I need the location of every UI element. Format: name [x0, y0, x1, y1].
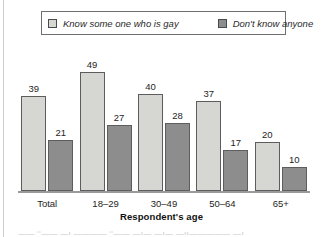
x-axis-tick-label: 30–49: [137, 198, 191, 209]
bar: [223, 150, 248, 191]
chart-legend: Know some one who is gay Don't know anyo…: [41, 11, 286, 35]
legend-swatch-dark-icon: [218, 19, 227, 28]
x-axis-tick-labels: Total18–2930–4950–6465+: [18, 198, 310, 209]
bar-value-label: 28: [172, 110, 183, 121]
bar: [80, 72, 105, 191]
bar-value-label: 37: [204, 88, 215, 99]
x-axis-title: Respondent's age: [0, 211, 323, 222]
bar-column: 28: [165, 44, 190, 191]
bar-column: 39: [21, 44, 46, 191]
bar: [21, 96, 46, 191]
bar-column: 10: [282, 44, 307, 191]
legend-label-know-someone: Know some one who is gay: [63, 18, 179, 29]
chart-plot-area: 39214927402837172010: [18, 44, 310, 193]
bar-group: 4927: [80, 44, 132, 191]
bar-column: 49: [80, 44, 105, 191]
x-axis-tick-label: 50–64: [195, 198, 249, 209]
x-axis-tick-label: Total: [20, 198, 74, 209]
chart-page: Know some one who is gay Don't know anyo…: [0, 0, 323, 237]
legend-entry-know-someone: Know some one who is gay: [48, 18, 179, 29]
bar-value-label: 10: [289, 154, 300, 165]
bar-column: 17: [223, 44, 248, 191]
bar-group: 4028: [138, 44, 190, 191]
legend-swatch-light-icon: [48, 19, 57, 28]
x-axis-tick-label: 18–29: [79, 198, 133, 209]
bar-group: 3921: [21, 44, 73, 191]
bar: [196, 101, 221, 191]
x-axis-line: [18, 191, 310, 193]
bar: [282, 167, 307, 191]
bar-column: 20: [255, 44, 280, 191]
bar-column: 37: [196, 44, 221, 191]
bar-value-label: 49: [87, 59, 98, 70]
bar-value-label: 40: [145, 81, 156, 92]
bar-groups: 39214927402837172010: [18, 44, 310, 191]
bar-column: 21: [48, 44, 73, 191]
bar: [107, 125, 132, 191]
bar-value-label: 17: [231, 137, 242, 148]
legend-label-dont-know: Don't know anyone: [233, 18, 314, 29]
bar: [165, 123, 190, 191]
bar-group: 3717: [196, 44, 248, 191]
legend-entry-dont-know: Don't know anyone: [218, 18, 314, 29]
bar-group: 2010: [255, 44, 307, 191]
bar-value-label: 20: [262, 129, 273, 140]
bar-column: 27: [107, 44, 132, 191]
bottom-clipped-text-artifact: ―— ‘‘―— —ı ―——— ‘‘—— —ı― ―ı— —ıı————— —ı: [18, 229, 310, 235]
bar-value-label: 39: [28, 83, 39, 94]
bar-value-label: 21: [55, 127, 66, 138]
bar-value-label: 27: [114, 112, 125, 123]
bar: [255, 142, 280, 191]
x-axis-tick-label: 65+: [254, 198, 308, 209]
bar: [48, 140, 73, 191]
bar-column: 40: [138, 44, 163, 191]
bar: [138, 94, 163, 191]
scan-edge-artifact: [3, 0, 4, 237]
